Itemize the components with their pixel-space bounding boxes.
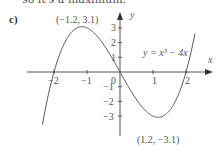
y-tick-label: 2 — [111, 37, 116, 48]
y-tick-label: −2 — [103, 96, 114, 107]
equation-label: y = x³ − 4x — [142, 47, 188, 58]
annotation-labels: (−1.2, 3.1)(1.2, −3.1)y = x³ − 4x — [56, 14, 188, 146]
function-curve — [43, 27, 195, 125]
y-axis-label: y — [129, 9, 135, 20]
y-tick-label: 3 — [111, 22, 116, 33]
cubic-graph: xy −2−1012−3−2−1123 (−1.2, 3.1)(1.2, −3.… — [0, 0, 217, 146]
max-point-label: (−1.2, 3.1) — [56, 14, 98, 26]
x-axis-arrow-icon — [205, 69, 213, 75]
x-tick-label: 2 — [185, 75, 190, 86]
x-tick-label: −1 — [81, 75, 92, 86]
x-axis-label: x — [207, 54, 213, 65]
min-point-label: (1.2, −3.1) — [137, 134, 179, 146]
y-axis-arrow-icon — [117, 12, 123, 20]
x-tick-label: −2 — [48, 75, 59, 86]
y-tick-label: −3 — [103, 111, 114, 122]
x-tick-label: 1 — [152, 75, 157, 86]
y-tick-label: −1 — [103, 81, 114, 92]
